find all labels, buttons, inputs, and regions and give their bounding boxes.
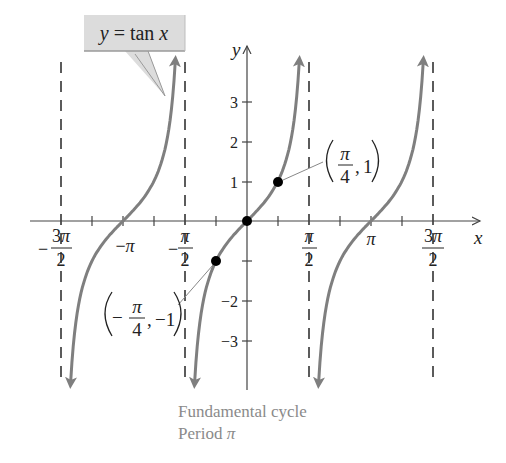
tan-branch-0 (71, 61, 176, 383)
x-axis-label: x (473, 227, 483, 248)
x-tick-neg-pi-2: − π 2 (168, 226, 193, 270)
x-tick-neg-pi: −π (115, 236, 135, 256)
tan-branch-2 (319, 61, 424, 383)
label-point-neg-pi-4-neg-1: − π 4 , −1 (105, 292, 181, 340)
callout-eq: = tan (109, 22, 160, 44)
x-tick-pi: π (366, 229, 376, 249)
svg-text:4: 4 (132, 319, 142, 340)
svg-text:π: π (304, 226, 314, 246)
label-point-pi-4-1: π 4 , 1 (327, 140, 379, 187)
svg-text:3π: 3π (52, 226, 71, 246)
y-tick-2: 2 (230, 134, 238, 151)
svg-text:4: 4 (340, 166, 350, 187)
y-tick-neg-2: −2 (221, 293, 238, 310)
chart-caption: Fundamental cycle Period π (178, 401, 307, 445)
y-tick-neg-3: −3 (221, 333, 238, 350)
point-pi-4-1 (273, 177, 283, 187)
svg-text:−: − (168, 239, 178, 259)
svg-text:π: π (366, 229, 376, 249)
x-tick-neg-3pi-2: − 3π 2 (38, 226, 72, 270)
svg-text:2: 2 (429, 250, 438, 270)
svg-text:2: 2 (57, 250, 66, 270)
x-tick-pi-2: π 2 (302, 226, 317, 270)
svg-text:1: 1 (363, 156, 373, 177)
svg-text:π: π (340, 143, 350, 164)
point-origin (242, 216, 252, 226)
tan-graph: y = tan x x y 3 2 1 −2 −3 − 3π 2 −π − π … (0, 0, 506, 463)
caption-period: Period π (178, 423, 307, 445)
svg-text:3π: 3π (424, 226, 443, 246)
svg-text:−: − (112, 307, 123, 328)
svg-text:2: 2 (181, 250, 190, 270)
callout-y: y (98, 22, 109, 45)
callout-x: x (158, 22, 168, 44)
svg-text:π: π (180, 226, 190, 246)
point-neg-pi-4-neg-1 (211, 256, 221, 266)
y-axis-label: y (230, 39, 241, 60)
svg-text:−π: −π (115, 236, 135, 256)
svg-text:−: − (38, 239, 48, 259)
svg-text:π: π (132, 296, 142, 317)
svg-text:−1: −1 (155, 309, 175, 330)
svg-text:,: , (355, 156, 360, 177)
caption-fundamental-cycle: Fundamental cycle (178, 401, 307, 423)
svg-text:2: 2 (305, 250, 314, 270)
function-callout: y = tan x (84, 15, 185, 96)
svg-text:y = tan x: y = tan x (98, 22, 169, 45)
svg-text:,: , (147, 309, 152, 330)
x-tick-3pi-2: 3π 2 (422, 226, 444, 270)
y-tick-3: 3 (230, 94, 238, 111)
leader-line-pi-4 (283, 162, 323, 180)
y-tick-1: 1 (230, 174, 238, 191)
